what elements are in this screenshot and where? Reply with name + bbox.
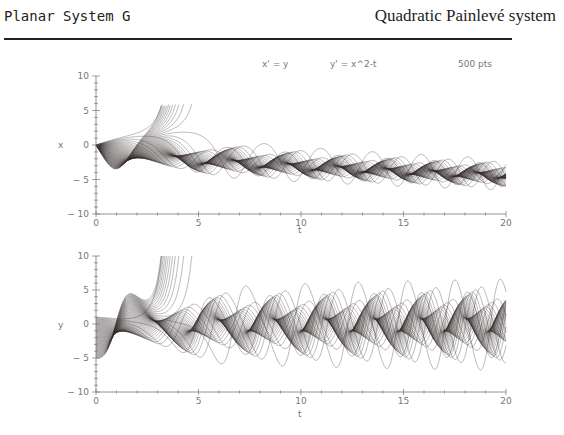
- solution-plots: 1050− 5− 10051015201050− 5− 1005101520 x…: [0, 0, 564, 435]
- bottom-xlabel: t: [298, 409, 302, 419]
- top-xlabel: t: [298, 225, 302, 235]
- top-plot-curves: [96, 104, 506, 190]
- x-tick-label: 5: [196, 218, 202, 228]
- x-tick-label: 5: [196, 396, 202, 406]
- x-tick-label: 20: [500, 218, 512, 228]
- y-tick-label: 10: [78, 251, 90, 261]
- top-ylabel: x: [58, 140, 64, 150]
- bottom-plot-curves: [96, 256, 506, 370]
- x-tick-label: 0: [93, 218, 99, 228]
- x-tick-label: 0: [93, 396, 99, 406]
- y-tick-label: − 5: [73, 353, 89, 363]
- y-tick-label: 0: [83, 140, 89, 150]
- y-tick-label: 5: [83, 106, 89, 116]
- y-tick-label: − 10: [67, 387, 89, 397]
- equation-x: x' = y: [262, 59, 289, 69]
- x-tick-label: 10: [295, 396, 307, 406]
- y-tick-label: 0: [83, 319, 89, 329]
- points-count: 500 pts: [458, 59, 492, 69]
- y-tick-label: 10: [78, 71, 90, 81]
- x-tick-label: 20: [500, 396, 512, 406]
- x-tick-label: 15: [398, 218, 409, 228]
- y-tick-label: − 5: [73, 175, 89, 185]
- y-tick-label: 5: [83, 285, 89, 295]
- plot-axes: 1050− 5− 10051015201050− 5− 1005101520: [67, 71, 512, 406]
- bottom-ylabel: y: [58, 320, 64, 330]
- equation-y: y' = x^2-t: [330, 59, 377, 69]
- y-tick-label: − 10: [67, 209, 89, 219]
- x-tick-label: 15: [398, 396, 409, 406]
